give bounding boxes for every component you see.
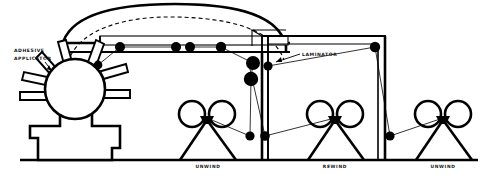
roller-post-top-right: [370, 42, 380, 52]
rewind-roll-a: [307, 101, 333, 127]
roller-beam-2: [171, 42, 181, 52]
web-laminator-to-floor: [250, 79, 251, 136]
laminator-arrowhead: [276, 57, 282, 62]
frame-beam-box: [100, 36, 288, 45]
roller-laminator-lower: [244, 72, 258, 86]
unwind-left-roll-b: [209, 101, 235, 127]
web-post-to-floor-right: [375, 47, 390, 136]
diagram-canvas: UNWIND REWIND UNWIND: [0, 0, 490, 178]
roller-floor-mid: [260, 131, 270, 141]
web-path: [98, 47, 443, 136]
roller-beam-4: [216, 42, 226, 52]
adhesive-applicator-label-line2: APPLICATOR: [14, 56, 52, 61]
roller-laminator-side: [263, 61, 272, 70]
roller-applicator-top: [94, 61, 103, 70]
roller-floor-left: [245, 131, 254, 140]
callout-laminator: LAMINATOR: [276, 52, 337, 62]
roller-beam-3: [185, 42, 195, 52]
adhesive-applicator-label-line1: ADHESIVE: [14, 48, 44, 53]
roller-floor-right: [385, 131, 394, 140]
rewind-label: REWIND: [323, 164, 347, 169]
line-drawing-schematic: UNWIND REWIND UNWIND: [0, 0, 490, 178]
unwind-left-roll-a: [179, 101, 205, 127]
unwind-right-label: UNWIND: [430, 164, 455, 169]
roller-beam-1: [115, 42, 125, 52]
unwind-left-label: UNWIND: [195, 164, 220, 169]
unwind-right-roll-b: [445, 101, 471, 127]
roller-laminator-top: [246, 56, 260, 70]
laminator-label: LAMINATOR: [302, 52, 337, 57]
rewind-roll-b: [337, 101, 363, 127]
